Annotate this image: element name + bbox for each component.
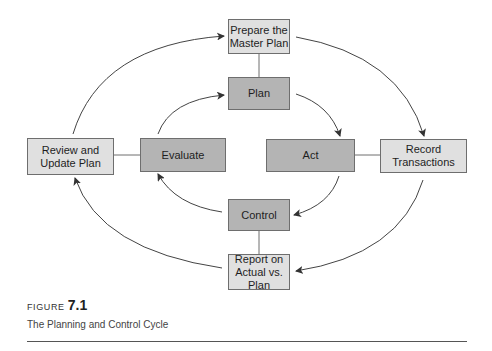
box-control: Control (228, 199, 290, 231)
caption-rule (27, 341, 467, 342)
arrow-record-to-report (296, 180, 423, 271)
box-plan: Plan (228, 77, 290, 110)
box-prepare-master-plan: Prepare the Master Plan (228, 19, 290, 54)
figure-number: 7.1 (68, 297, 87, 313)
box-report-actual-vs-plan: Report on Actual vs. Plan (228, 254, 290, 290)
arrow-report-to-review (75, 178, 222, 268)
box-record-transactions: Record Transactions (380, 139, 467, 173)
figure-label: FIGURE 7.1 (27, 297, 87, 313)
figure-label-text: FIGURE (27, 302, 65, 312)
box-act: Act (266, 139, 355, 172)
arrow-act-to-control (294, 176, 339, 215)
arrow-evaluate-to-plan (158, 95, 224, 134)
box-evaluate: Evaluate (140, 138, 226, 172)
arrow-prepare-to-record (296, 37, 424, 136)
arrow-review-to-prepare (73, 36, 224, 134)
arrow-control-to-evaluate (158, 174, 222, 212)
box-review-update-plan: Review and Update Plan (27, 138, 114, 175)
arrow-plan-to-act (296, 94, 340, 136)
figure-caption: The Planning and Control Cycle (27, 319, 168, 330)
